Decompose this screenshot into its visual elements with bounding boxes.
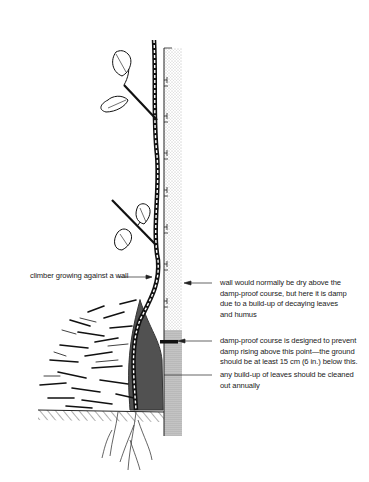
leaf-litter	[40, 300, 163, 410]
label-line: damp-proof course, but here it is damp	[220, 289, 347, 300]
label-line: wall would normally be dry above the	[220, 278, 347, 289]
ground	[38, 410, 164, 424]
label-climber: climber growing against a wall	[30, 271, 128, 282]
label-dpc: damp-proof course is designed to prevent…	[220, 336, 357, 368]
label-line: and humus	[220, 310, 347, 321]
label-line: due to a build-up of decaying leaves	[220, 299, 347, 310]
label-cleaning: any build-up of leaves should be cleaned…	[220, 370, 354, 391]
label-line: any build-up of leaves should be cleaned	[220, 370, 354, 381]
label-line: damp rising above this point—the ground	[220, 347, 357, 358]
damp-proof-course	[160, 340, 178, 344]
label-line: damp-proof course is designed to prevent	[220, 336, 357, 347]
wall	[160, 48, 182, 436]
label-line: out annually	[220, 381, 354, 392]
climber-wall-illustration	[0, 0, 369, 482]
arrow-head-icon	[184, 281, 191, 285]
label-wall-damp: wall would normally be dry above the dam…	[220, 278, 347, 320]
arrow-head-icon	[146, 275, 152, 279]
leaves	[101, 51, 150, 250]
label-line: should be at least 15 cm (6 in.) below t…	[220, 357, 357, 368]
